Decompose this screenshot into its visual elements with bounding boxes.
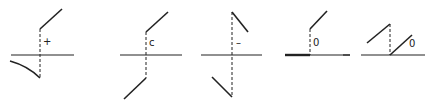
right-branch bbox=[40, 9, 62, 29]
panel-label-minus: – bbox=[236, 37, 241, 48]
right-branch bbox=[310, 11, 327, 29]
left-branch bbox=[212, 77, 232, 97]
panel-minus bbox=[201, 12, 262, 97]
panel-plus bbox=[10, 9, 74, 78]
panel-label-zero-b: 0 bbox=[409, 38, 415, 49]
left-branch bbox=[10, 61, 40, 78]
left-branch bbox=[124, 78, 146, 99]
panel-zero-a bbox=[285, 11, 350, 55]
right-branch bbox=[232, 12, 248, 32]
panel-label-zero-a: 0 bbox=[313, 37, 319, 48]
right-branch bbox=[146, 12, 168, 32]
panel-label-c: c bbox=[149, 37, 155, 48]
diagram-canvas: + c – 0 0 bbox=[0, 0, 433, 106]
panel-label-plus: + bbox=[43, 36, 51, 47]
left-branch bbox=[367, 24, 390, 43]
panel-c bbox=[120, 12, 182, 99]
